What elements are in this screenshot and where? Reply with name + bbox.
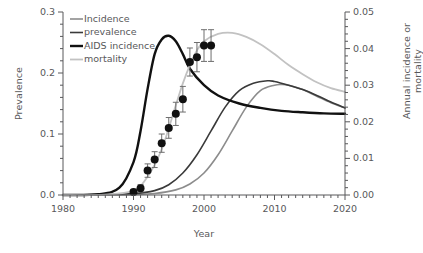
x-tick-label: 2020 bbox=[325, 203, 365, 214]
y-tick-label-right: 0.00 bbox=[353, 189, 385, 200]
data-point bbox=[200, 42, 208, 50]
legend-label-prevalence: prevalence bbox=[84, 26, 137, 37]
y-tick-label-right: 0.01 bbox=[353, 152, 385, 163]
data-point bbox=[151, 156, 159, 164]
legend-label-aids-incidence: AIDS incidence bbox=[84, 40, 155, 51]
x-tick-label: 1990 bbox=[114, 203, 154, 214]
y-tick-label-left: 0.2 bbox=[27, 67, 55, 78]
y-tick-label-right: 0.04 bbox=[353, 43, 385, 54]
series-line-prevalence bbox=[63, 81, 345, 195]
y-tick-label-right: 0.05 bbox=[353, 6, 385, 17]
x-tick-label: 1980 bbox=[43, 203, 83, 214]
legend-label-mortality: mortality bbox=[84, 53, 127, 64]
y-tick-label-right: 0.02 bbox=[353, 116, 385, 127]
data-point bbox=[186, 58, 194, 66]
x-tick-label: 2010 bbox=[255, 203, 295, 214]
y-axis-title-left: Prevalence bbox=[13, 54, 24, 134]
y-axis-title-right: Annual incidence or mortality bbox=[401, 6, 423, 136]
legend-swatch-layer bbox=[70, 19, 83, 60]
series-line-incidence bbox=[63, 84, 345, 195]
data-point bbox=[172, 110, 180, 118]
data-point bbox=[179, 95, 187, 103]
data-point bbox=[165, 124, 173, 132]
legend-label-incidence: Incidence bbox=[84, 13, 130, 24]
data-point bbox=[207, 42, 215, 50]
x-axis-title: Year bbox=[150, 228, 258, 239]
y-tick-label-left: 0.1 bbox=[27, 128, 55, 139]
data-point bbox=[193, 53, 201, 61]
x-tick-label: 2000 bbox=[184, 203, 224, 214]
data-point bbox=[137, 184, 145, 192]
y-tick-label-left: 0.3 bbox=[27, 6, 55, 17]
y-tick-label-right: 0.03 bbox=[353, 79, 385, 90]
data-point bbox=[144, 167, 152, 175]
data-point bbox=[158, 139, 166, 147]
y-tick-label-left: 0.0 bbox=[27, 189, 55, 200]
